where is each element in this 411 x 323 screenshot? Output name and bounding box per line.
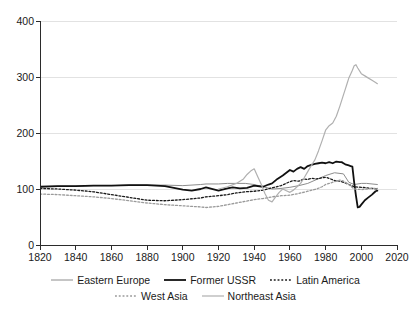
x-tick-1860 — [111, 246, 112, 250]
series-line-former-ussr — [40, 162, 377, 208]
x-tick-label-1960: 1960 — [278, 252, 301, 263]
y-tick-200 — [36, 133, 40, 134]
y-tick-400 — [36, 21, 40, 22]
x-tick-1880 — [147, 246, 148, 250]
x-tick-label-1940: 1940 — [243, 252, 266, 263]
x-tick-label-1820: 1820 — [28, 252, 51, 263]
y-tick-label-300: 300 — [4, 72, 34, 83]
x-tick-1940 — [254, 246, 255, 250]
series-lines — [40, 65, 377, 208]
plot-area — [40, 21, 397, 245]
x-tick-2000 — [361, 246, 362, 250]
x-tick-1840 — [75, 246, 76, 250]
line-solid-gray-thin-icon — [51, 276, 73, 284]
legend-row-1: Eastern EuropeFormer USSRLatin America — [0, 272, 411, 288]
legend-label: Latin America — [296, 275, 360, 286]
legend-item-latin-america[interactable]: Latin America — [270, 275, 360, 286]
line-chart: 0100200300400 18201840186018801900192019… — [0, 0, 411, 323]
x-tick-label-1900: 1900 — [171, 252, 194, 263]
legend-item-west-asia[interactable]: West Asia — [115, 291, 188, 302]
x-tick-2020 — [397, 246, 398, 250]
x-tick-label-2000: 2000 — [350, 252, 373, 263]
x-tick-1960 — [289, 246, 290, 250]
y-tick-label-100: 100 — [4, 184, 34, 195]
y-tick-label-400: 400 — [4, 16, 34, 27]
y-tick-100 — [36, 189, 40, 190]
x-tick-label-2020: 2020 — [385, 252, 408, 263]
y-tick-label-200: 200 — [4, 128, 34, 139]
x-tick-1820 — [40, 246, 41, 250]
chart-legend: Eastern EuropeFormer USSRLatin AmericaWe… — [0, 272, 411, 304]
line-dotted-gray-icon — [115, 292, 137, 300]
legend-label: Northeast Asia — [228, 291, 296, 302]
x-tick-label-1980: 1980 — [314, 252, 337, 263]
x-tick-label-1840: 1840 — [64, 252, 87, 263]
legend-label: West Asia — [141, 291, 188, 302]
legend-item-northeast-asia[interactable]: Northeast Asia — [202, 291, 296, 302]
x-tick-label-1860: 1860 — [100, 252, 123, 263]
legend-label: Former USSR — [190, 275, 256, 286]
line-solid-black-thick-icon — [164, 276, 186, 284]
y-tick-label-0: 0 — [4, 240, 34, 251]
x-tick-label-1920: 1920 — [207, 252, 230, 263]
line-solid-gray-icon — [202, 292, 224, 300]
x-tick-label-1880: 1880 — [135, 252, 158, 263]
legend-label: Eastern Europe — [77, 275, 150, 286]
x-tick-1900 — [182, 246, 183, 250]
x-tick-1920 — [218, 246, 219, 250]
y-tick-300 — [36, 77, 40, 78]
legend-item-former-ussr[interactable]: Former USSR — [164, 275, 256, 286]
line-dotted-black-icon — [270, 276, 292, 284]
legend-item-eastern-europe[interactable]: Eastern Europe — [51, 275, 150, 286]
legend-row-2: West AsiaNortheast Asia — [0, 288, 411, 304]
plot-svg — [40, 21, 397, 245]
x-tick-1980 — [325, 246, 326, 250]
